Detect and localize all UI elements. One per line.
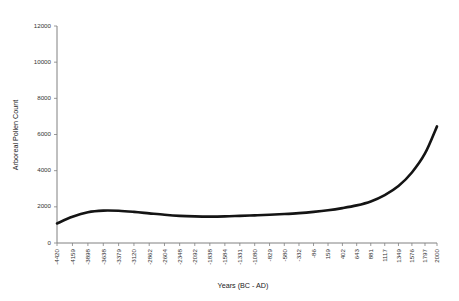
x-tick-label: -1331 <box>236 248 243 264</box>
x-tick-label: -3120 <box>130 248 137 264</box>
x-tick-label: -2862 <box>146 248 153 264</box>
x-tick-label: 1349 <box>395 248 402 262</box>
data-series-line <box>57 126 437 223</box>
x-tick-label: -4420 <box>53 248 60 264</box>
y-tick-label: 2000 <box>37 202 51 209</box>
pollen-line-chart: 020004000600080001000012000 -4420-4159-3… <box>0 0 459 301</box>
x-tick-label: 159 <box>324 248 331 259</box>
y-tick-label: 6000 <box>37 130 51 137</box>
x-tick-labels: -4420-4159-3898-3638-3379-3120-2862-2604… <box>53 248 440 264</box>
x-tick-label: 1117 <box>381 248 388 261</box>
y-tick-label: 12000 <box>34 22 52 29</box>
x-tick-label: -3898 <box>84 248 91 264</box>
x-tick-label: 402 <box>339 248 346 259</box>
x-tick-label: -829 <box>266 248 273 261</box>
x-tick-label: -1080 <box>251 248 258 264</box>
x-tick-label: -3638 <box>100 248 107 264</box>
x-tick-label: 2000 <box>433 248 440 262</box>
x-tick-label: 1576 <box>408 248 415 262</box>
y-tick-labels: 020004000600080001000012000 <box>34 22 52 246</box>
x-tick-label: -3379 <box>115 248 122 264</box>
x-tick-label: -580 <box>281 248 288 261</box>
x-tick-label: -1838 <box>206 248 213 264</box>
x-tick-label: -332 <box>295 248 302 261</box>
y-axis-group: 020004000600080001000012000 <box>34 22 57 246</box>
x-tick-label: 1797 <box>421 248 428 262</box>
x-tick-label: 643 <box>353 248 360 259</box>
y-axis-title: Arboreal Pollen Count <box>11 100 20 170</box>
x-tick-label: 881 <box>367 248 374 259</box>
y-tick-label: 0 <box>48 239 52 246</box>
x-tick-label: -4159 <box>69 248 76 264</box>
chart-container: 020004000600080001000012000 -4420-4159-3… <box>0 0 459 301</box>
y-tick-label: 10000 <box>34 58 52 65</box>
y-tick-label: 8000 <box>37 94 51 101</box>
x-tick-label: -2092 <box>191 248 198 264</box>
x-axis-title: Years (BC - AD) <box>218 281 269 290</box>
x-tick-label: -2604 <box>161 248 168 264</box>
y-tick-label: 4000 <box>37 166 51 173</box>
x-tick-label: -86 <box>310 248 317 258</box>
x-tick-label: -1584 <box>221 248 228 264</box>
x-axis-group: -4420-4159-3898-3638-3379-3120-2862-2604… <box>53 243 440 265</box>
x-tick-label: -2348 <box>176 248 183 264</box>
